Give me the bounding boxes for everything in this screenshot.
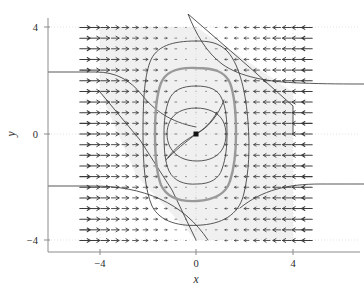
field-arrow bbox=[90, 26, 100, 30]
field-arrow bbox=[122, 164, 129, 167]
field-arrow bbox=[111, 175, 119, 179]
field-arrow bbox=[292, 58, 302, 62]
field-arrow bbox=[292, 100, 302, 104]
field-arrow bbox=[90, 79, 100, 83]
field-arrow bbox=[111, 196, 119, 200]
field-arrow bbox=[302, 58, 313, 62]
field-arrow bbox=[111, 143, 119, 147]
field-arrow bbox=[254, 47, 260, 50]
field-arrow bbox=[90, 153, 100, 157]
field-arrow bbox=[80, 111, 91, 115]
field-arrow bbox=[254, 58, 260, 61]
field-arrow bbox=[302, 143, 313, 147]
y-axis-title: y bbox=[5, 131, 18, 138]
field-arrow bbox=[143, 197, 148, 199]
field-arrow bbox=[80, 89, 91, 93]
field-arrow bbox=[154, 218, 158, 220]
field-arrow bbox=[263, 68, 270, 71]
ytick-label-4: 4 bbox=[33, 22, 39, 33]
field-arrow bbox=[101, 132, 110, 136]
field-arrow bbox=[283, 36, 292, 40]
field-arrow bbox=[111, 217, 119, 221]
field-arrow bbox=[302, 185, 313, 189]
field-arrow bbox=[302, 36, 313, 40]
field-arrow bbox=[122, 196, 129, 199]
field-arrow bbox=[292, 196, 302, 200]
field-arrow bbox=[111, 239, 119, 243]
field-arrow bbox=[111, 153, 119, 157]
field-arrow bbox=[80, 121, 91, 125]
field-arrow bbox=[80, 207, 91, 211]
field-arrow bbox=[292, 228, 302, 232]
field-arrow bbox=[283, 26, 292, 30]
xtick-label-4: 4 bbox=[290, 258, 296, 269]
field-arrow bbox=[80, 47, 91, 51]
field-arrow bbox=[143, 218, 148, 220]
field-arrow bbox=[80, 175, 91, 179]
equilibrium-point bbox=[194, 132, 199, 137]
field-arrow bbox=[292, 79, 302, 83]
field-arrow bbox=[90, 58, 100, 62]
field-arrow bbox=[273, 68, 281, 72]
field-arrow bbox=[302, 207, 313, 211]
field-arrow bbox=[80, 143, 91, 147]
field-arrow bbox=[90, 89, 100, 93]
ytick-label-0: 0 bbox=[33, 129, 38, 140]
field-arrow bbox=[90, 196, 100, 200]
field-arrow bbox=[273, 47, 281, 51]
field-arrow bbox=[80, 196, 91, 200]
field-arrow bbox=[80, 217, 91, 221]
field-arrow bbox=[254, 37, 260, 40]
ytick-label--4: −4 bbox=[27, 235, 39, 246]
field-arrow bbox=[143, 229, 148, 231]
field-arrow bbox=[101, 164, 110, 168]
field-arrow bbox=[80, 239, 91, 243]
field-arrow bbox=[302, 239, 313, 243]
field-arrow bbox=[302, 111, 313, 115]
field-arrow bbox=[302, 121, 313, 125]
field-arrow bbox=[292, 239, 302, 243]
field-arrow bbox=[90, 36, 100, 40]
field-arrow bbox=[101, 121, 110, 125]
field-arrow bbox=[263, 58, 270, 61]
field-arrow bbox=[80, 228, 91, 232]
field-arrow bbox=[80, 132, 91, 136]
field-arrow bbox=[133, 228, 139, 231]
field-arrow bbox=[101, 228, 110, 232]
field-arrow bbox=[302, 153, 313, 157]
field-arrow bbox=[101, 175, 110, 179]
field-arrow bbox=[101, 143, 110, 147]
field-arrow bbox=[80, 36, 91, 40]
field-arrow bbox=[234, 48, 238, 50]
field-arrow bbox=[302, 228, 313, 232]
field-arrow bbox=[80, 58, 91, 62]
field-arrow bbox=[302, 217, 313, 221]
x-axis-title: x bbox=[192, 273, 199, 285]
field-arrow bbox=[122, 217, 129, 220]
field-arrow bbox=[90, 132, 100, 136]
field-arrow bbox=[90, 68, 100, 72]
field-arrow bbox=[101, 207, 110, 211]
field-arrow bbox=[273, 36, 281, 40]
field-arrow bbox=[80, 100, 91, 104]
field-arrow bbox=[302, 132, 313, 136]
field-arrow bbox=[101, 196, 110, 200]
field-arrow bbox=[101, 239, 110, 243]
field-arrow bbox=[90, 217, 100, 221]
field-arrow bbox=[90, 111, 100, 115]
field-arrow bbox=[164, 208, 167, 210]
field-arrow bbox=[254, 26, 260, 29]
field-arrow bbox=[80, 153, 91, 157]
field-arrow bbox=[292, 175, 302, 179]
field-arrow bbox=[164, 240, 167, 242]
field-arrow bbox=[302, 100, 313, 104]
field-arrow bbox=[80, 26, 91, 30]
field-arrow bbox=[133, 207, 139, 210]
field-arrow bbox=[244, 58, 249, 60]
field-arrow bbox=[90, 228, 100, 232]
field-arrow bbox=[111, 164, 119, 168]
field-arrow bbox=[143, 207, 148, 209]
field-arrow bbox=[292, 68, 302, 72]
field-arrow bbox=[164, 229, 167, 231]
field-arrow bbox=[154, 240, 158, 242]
